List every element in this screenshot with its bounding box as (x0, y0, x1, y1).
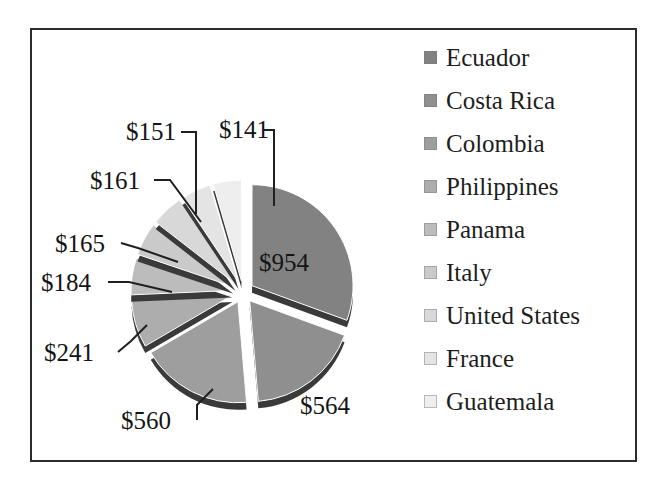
legend-item-guatemala[interactable]: Guatemala (424, 380, 624, 423)
legend-item-colombia[interactable]: Colombia (424, 122, 624, 165)
legend-swatch-icon (424, 51, 437, 64)
legend-item-philippines[interactable]: Philippines (424, 165, 624, 208)
value-label-564: $564 (300, 392, 350, 420)
legend-swatch-icon (424, 395, 437, 408)
legend-swatch-icon (424, 223, 437, 236)
legend-swatch-icon (424, 309, 437, 322)
legend-item-ecuador[interactable]: Ecuador (424, 36, 624, 79)
legend-item-label: United States (446, 303, 580, 328)
legend-swatch-icon (424, 352, 437, 365)
value-label-161: $161 (90, 167, 140, 195)
value-label-151: $151 (126, 118, 176, 146)
legend-item-panama[interactable]: Panama (424, 208, 624, 251)
value-label-954: $954 (259, 249, 309, 277)
legend-item-label: Italy (446, 260, 492, 285)
legend-item-label: Ecuador (446, 45, 529, 70)
legend-item-france[interactable]: France (424, 337, 624, 380)
legend-item-label: Panama (446, 217, 525, 242)
legend-swatch-icon (424, 180, 437, 193)
legend-item-label: Philippines (446, 174, 559, 199)
value-label-141: $141 (219, 116, 269, 144)
value-label-560: $560 (121, 407, 171, 435)
value-label-184: $184 (41, 269, 91, 297)
legend-item-label: Colombia (446, 131, 545, 156)
value-label-241: $241 (44, 339, 94, 367)
legend-swatch-icon (424, 137, 437, 150)
pie-slices (131, 180, 353, 410)
legend-item-costa-rica[interactable]: Costa Rica (424, 79, 624, 122)
legend-swatch-icon (424, 266, 437, 279)
legend-item-italy[interactable]: Italy (424, 251, 624, 294)
legend-swatch-icon (424, 94, 437, 107)
legend-item-label: Costa Rica (446, 88, 555, 113)
chart-legend: EcuadorCosta RicaColombiaPhilippinesPana… (424, 36, 624, 423)
value-label-165: $165 (55, 230, 105, 258)
legend-item-label: France (446, 346, 514, 371)
legend-item-united-states[interactable]: United States (424, 294, 624, 337)
legend-item-label: Guatemala (446, 389, 554, 414)
